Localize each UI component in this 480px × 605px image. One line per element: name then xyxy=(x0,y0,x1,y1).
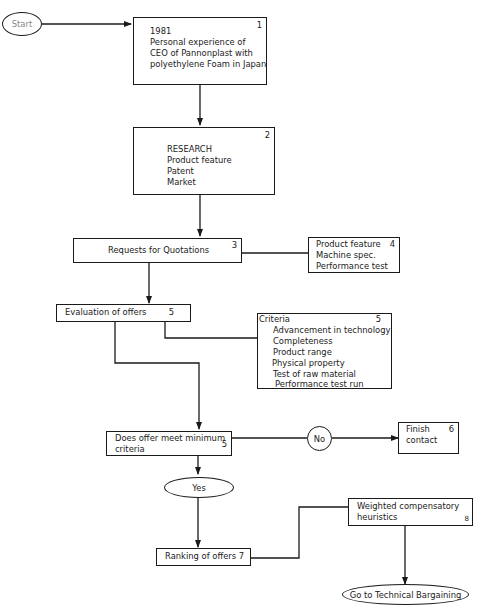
criteria-title: Criteria xyxy=(258,314,391,325)
no-branch-node: No xyxy=(307,426,332,451)
step-number: 3 xyxy=(232,240,237,251)
step-number: 6 xyxy=(449,424,454,435)
box-weighted-compensatory-heuristics: 8 Weighted compensatory heuristics xyxy=(348,498,473,526)
box-1981-experience: 1 1981 Personal experience of CEO of Pan… xyxy=(133,17,267,85)
flowchart: Start 1 1981 Personal experience of CEO … xyxy=(0,0,480,605)
step-number: 5 xyxy=(376,314,381,325)
start-node: Start xyxy=(2,12,42,36)
step-number: 5 xyxy=(169,307,174,318)
box-finish-contact: 6 Finish contact xyxy=(398,422,459,454)
box-requests-for-quotations: 3 Requests for Quotations xyxy=(73,238,242,263)
step-number: 5 xyxy=(222,439,227,450)
step-number: 1 xyxy=(257,20,262,31)
box-minimum-criteria-decision: 5 Does offer meet minimum criteria xyxy=(106,431,232,456)
yes-branch-node: Yes xyxy=(164,477,234,498)
box-criteria: 5 Criteria Advancement in technology Com… xyxy=(257,313,392,389)
box-research: 2 RESEARCH Product feature Patent Market xyxy=(133,127,275,195)
step-number: 8 xyxy=(465,514,469,525)
end-node-technical-bargaining: Go to Technical Bargaining xyxy=(342,584,469,605)
step-number: 2 xyxy=(265,130,270,141)
box-ranking-of-offers: Ranking of offers 7 xyxy=(156,548,251,566)
step-number: 4 xyxy=(390,239,395,250)
box-evaluation-of-offers: 5 Evaluation of offers xyxy=(56,304,191,322)
start-label: Start xyxy=(12,19,32,29)
box-rfq-contents: 4 Product feature Machine spec. Performa… xyxy=(308,237,400,273)
